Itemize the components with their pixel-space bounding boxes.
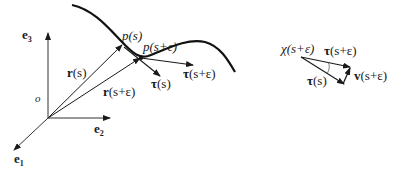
r-s-vector [48, 45, 122, 118]
tau-s-eps-right-label: τ(s+ε) [324, 43, 357, 58]
e1-axis [14, 118, 48, 150]
curve-diagram: e3 e2 e1 o r(s) r(s+ε) p(s) p(s+ε) τ(s) … [0, 0, 399, 175]
p-s-eps-label: p(s+ε) [142, 39, 177, 54]
tau-s-eps-label: τ(s+ε) [183, 66, 216, 81]
angle-arc [327, 62, 329, 74]
r-s-label: r(s) [67, 65, 87, 80]
e2-label: e2 [94, 121, 104, 138]
tau-s-right-label: τ(s) [307, 73, 327, 88]
tau-s-eps-vector [141, 58, 193, 65]
r-s-eps-label: r(s+ε) [103, 84, 135, 99]
p-s-label: p(s) [121, 28, 142, 43]
tau-s-label: τ(s) [151, 76, 171, 91]
e3-label: e3 [22, 27, 32, 44]
e1-label: e1 [14, 151, 24, 168]
v-s-eps-arrow [343, 68, 350, 84]
v-s-eps-label: v(s+ε) [354, 68, 387, 83]
origin-label: o [35, 92, 41, 104]
chi-label: χ(s+ε) [279, 41, 314, 56]
